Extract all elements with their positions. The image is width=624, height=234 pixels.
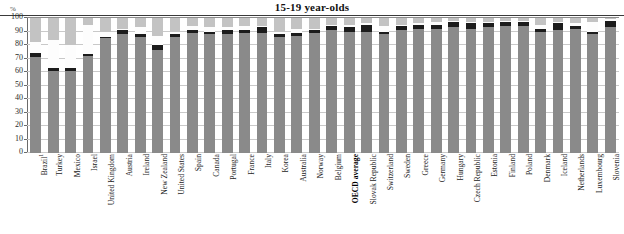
bar-segment-series_c (239, 26, 250, 30)
bar-group[interactable] (413, 18, 424, 153)
x-axis-category-label: Netherlands (578, 154, 586, 191)
bar-segment-series_d (222, 18, 233, 27)
bar-segment-series_d (448, 18, 459, 21)
bar-segment-series_b (117, 30, 128, 34)
bar-segment-series_d (466, 18, 477, 22)
bar-segment-series_b (257, 27, 268, 32)
bar-segment-series_d (65, 18, 76, 45)
bar-group[interactable] (379, 18, 390, 153)
bar-stack (396, 18, 407, 153)
bar-stack (500, 18, 511, 153)
bar-group[interactable] (466, 18, 477, 153)
bar-group[interactable] (222, 18, 233, 153)
bar-stack (83, 18, 94, 153)
bar-group[interactable] (30, 18, 41, 153)
bar-segment-series_d (500, 18, 511, 21)
bar-segment-series_b (83, 54, 94, 55)
bar-series-layer (27, 18, 619, 153)
bar-segment-series_d (309, 18, 320, 29)
bar-group[interactable] (291, 18, 302, 153)
bar-stack (239, 18, 250, 153)
bar-segment-series_c (83, 25, 94, 55)
bar-segment-series_d (326, 18, 337, 25)
bar-segment-series_d (291, 18, 302, 29)
bar-group[interactable] (518, 18, 529, 153)
bar-segment-series_d (553, 18, 564, 22)
x-axis-category-label: Switzerland (387, 154, 395, 190)
bar-segment-series_d (204, 18, 215, 27)
bar-group[interactable] (257, 18, 268, 153)
bar-group[interactable] (326, 18, 337, 153)
bar-segment-series_c (117, 29, 128, 30)
bar-segment-series_c (483, 22, 494, 23)
x-axis-category-label: Mexico (74, 154, 82, 177)
bar-group[interactable] (274, 18, 285, 153)
bar-segment-series_a (344, 32, 355, 154)
bar-group[interactable] (396, 18, 407, 153)
bar-segment-series_b (379, 32, 390, 35)
bar-group[interactable] (187, 18, 198, 153)
bar-segment-series_c (326, 25, 337, 26)
bar-segment-series_a (448, 27, 459, 153)
bar-segment-series_a (553, 30, 564, 153)
bar-segment-series_c (535, 25, 546, 29)
bar-group[interactable] (431, 18, 442, 153)
bar-group[interactable] (135, 18, 146, 153)
bar-segment-series_a (605, 27, 616, 153)
bar-segment-series_b (187, 30, 198, 33)
bar-group[interactable] (605, 18, 616, 153)
chart-container: 15-19 year-olds % 0102030405060708090100… (0, 0, 624, 234)
x-axis-category-label: Korea (282, 154, 290, 173)
y-axis-tick-label: 0 (19, 148, 23, 156)
x-axis-category-label: Czech Republic (474, 154, 482, 202)
bar-stack (187, 18, 198, 153)
bar-segment-series_a (431, 29, 442, 153)
x-axis-category-label: Poland (526, 154, 534, 175)
bar-segment-series_b (344, 27, 355, 31)
bar-segment-series_a (466, 29, 477, 153)
bar-segment-series_b (518, 22, 529, 26)
bar-stack (222, 18, 233, 153)
y-axis-tick-label: 80 (15, 40, 23, 48)
bar-group[interactable] (587, 18, 598, 153)
bar-group[interactable] (152, 18, 163, 153)
bar-group[interactable] (204, 18, 215, 153)
y-axis-tick-label: 10 (15, 135, 23, 143)
bar-segment-series_d (535, 18, 546, 25)
bar-group[interactable] (361, 18, 372, 153)
bar-group[interactable] (65, 18, 76, 153)
bar-group[interactable] (500, 18, 511, 153)
bar-group[interactable] (535, 18, 546, 153)
bar-segment-series_d (379, 18, 390, 26)
x-axis-category-label: Austria (126, 154, 134, 176)
bar-segment-series_a (239, 33, 250, 153)
bar-group[interactable] (309, 18, 320, 153)
bar-segment-series_a (222, 34, 233, 153)
bar-segment-series_a (570, 29, 581, 153)
bar-group[interactable] (448, 18, 459, 153)
bar-group[interactable] (344, 18, 355, 153)
bar-segment-series_c (553, 22, 564, 23)
bar-stack (448, 18, 459, 153)
x-axis-category-label: Ireland (143, 154, 151, 176)
bar-group[interactable] (239, 18, 250, 153)
bar-segment-series_c (48, 40, 59, 68)
x-axis-category-label: Australia (300, 154, 308, 182)
bar-segment-series_b (152, 45, 163, 50)
bar-segment-series_d (83, 18, 94, 25)
bar-group[interactable] (170, 18, 181, 153)
title-divider (0, 15, 624, 16)
bar-segment-series_b (274, 34, 285, 37)
bar-group[interactable] (117, 18, 128, 153)
bar-segment-series_d (100, 18, 111, 32)
bar-stack (431, 18, 442, 153)
bar-group[interactable] (553, 18, 564, 153)
bar-group[interactable] (570, 18, 581, 153)
bar-group[interactable] (100, 18, 111, 153)
bar-segment-series_d (239, 18, 250, 26)
bar-group[interactable] (83, 18, 94, 153)
bar-segment-series_c (100, 32, 111, 37)
bar-group[interactable] (483, 18, 494, 153)
bar-segment-series_b (448, 22, 459, 27)
bar-group[interactable] (48, 18, 59, 153)
